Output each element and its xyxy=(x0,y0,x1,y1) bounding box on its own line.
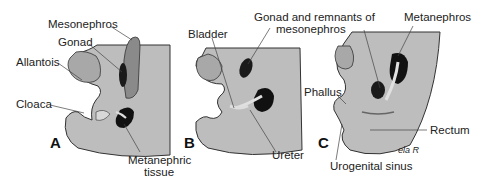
label-metanephric-2: tissue xyxy=(144,166,174,178)
artist-signature: ela R xyxy=(398,144,419,156)
label-gonad-remnants-1: Gonad and remnants of xyxy=(254,11,375,23)
label-rectum: Rectum xyxy=(430,124,470,136)
panel-letter-b: B xyxy=(184,134,195,151)
label-mesonephros: Mesonephros xyxy=(48,18,118,30)
label-urogenital-sinus: Urogenital sinus xyxy=(330,160,412,172)
panel-letter-c: C xyxy=(318,134,329,151)
label-phallus: Phallus xyxy=(304,86,342,98)
panel-b-drawing xyxy=(196,48,302,155)
label-cloaca: Cloaca xyxy=(16,98,52,110)
label-allantois: Allantois xyxy=(16,56,59,68)
label-metanephric-1: Metanephric xyxy=(128,154,191,166)
panel-letter-a: A xyxy=(50,134,61,151)
panel-a-drawing xyxy=(65,37,170,156)
label-metanephros: Metanephros xyxy=(404,11,471,23)
panel-c-drawing xyxy=(334,32,440,154)
label-gonad: Gonad xyxy=(58,36,93,48)
label-ureter: Ureter xyxy=(272,149,304,161)
label-bladder: Bladder xyxy=(188,28,228,40)
label-gonad-remnants-2: mesonephros xyxy=(276,23,346,35)
